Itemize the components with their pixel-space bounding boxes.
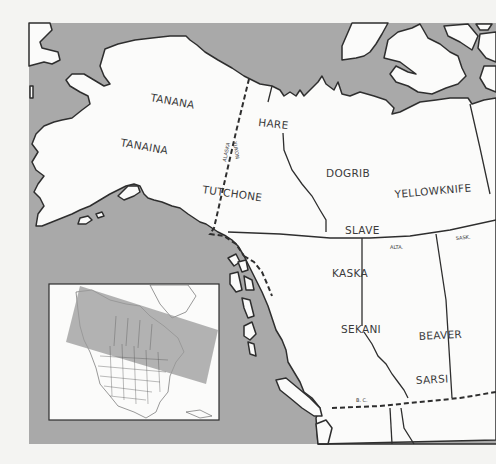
tribe-label-dogrib: DOGRIB bbox=[326, 167, 370, 179]
tribe-label-sekani: SEKANI bbox=[341, 323, 381, 335]
small-island bbox=[30, 86, 33, 98]
region-label-alta: ALTA. bbox=[390, 244, 404, 250]
map-canvas: TANANA TANAINA TUTCHONE HARE DOGRIB YELL… bbox=[0, 0, 496, 464]
aleutian-island-2 bbox=[96, 212, 104, 218]
tribe-label-kaska: KASKA bbox=[332, 267, 368, 279]
tribe-label-beaver: BEAVER bbox=[418, 328, 462, 342]
inset-map bbox=[49, 284, 219, 420]
tribe-label-slave: SLAVE bbox=[345, 224, 380, 236]
olympic-peninsula bbox=[316, 420, 332, 444]
region-label-bc: B. C. bbox=[356, 397, 368, 403]
tribe-label-sarsi: SARSI bbox=[415, 372, 448, 386]
